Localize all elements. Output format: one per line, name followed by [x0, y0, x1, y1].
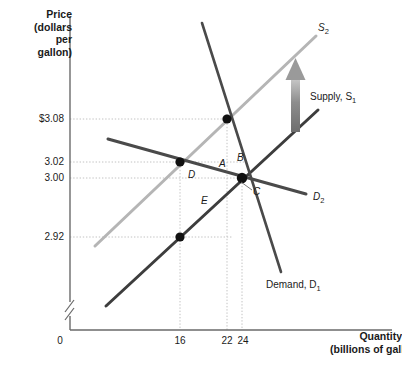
marker-22-308 — [222, 114, 231, 123]
x-tick-label-0: 0 — [45, 335, 75, 346]
marker-24-300 — [237, 173, 247, 183]
demand-d1-label-text: Demand, D — [266, 279, 317, 290]
supply-demand-chart: Price (dollars per gallon) Quantity (bil… — [0, 0, 402, 370]
supply-s2-label-text: S — [318, 22, 325, 33]
point-label-d: D — [188, 169, 195, 180]
y-tick-label-308: $3.08 — [12, 113, 64, 124]
demand-d1-label-sub: 1 — [317, 284, 321, 293]
x-axis-title-line-2: (billions of gallons) — [330, 343, 402, 356]
y-axis-title-line-4: gallon) — [10, 46, 72, 59]
point-label-e: E — [201, 195, 208, 206]
point-label-a: A — [219, 158, 226, 169]
demand-d2-label: D2 — [313, 191, 324, 205]
supply-curve-s1 — [106, 110, 318, 306]
supply-s2-label-sub: 2 — [325, 27, 329, 36]
leader-line-c — [241, 182, 252, 190]
horizontal-gridlines — [70, 119, 247, 237]
supply-s1-label: Supply, S1 — [310, 91, 356, 105]
y-axis-title: Price (dollars per gallon) — [10, 8, 72, 58]
y-tick-label-300: 3.00 — [12, 172, 64, 183]
demand-d2-label-sub: 2 — [320, 196, 324, 205]
x-axis-title-line-1: Quantity — [359, 330, 402, 342]
x-tick-label-24: 24 — [228, 335, 258, 346]
marker-16-302 — [175, 157, 184, 166]
point-label-c: C — [253, 186, 260, 197]
y-axis-title-line-3: per — [10, 33, 72, 46]
point-label-b: B — [237, 152, 244, 163]
supply-s1-label-text: Supply, S — [310, 91, 352, 102]
supply-s1-label-sub: 1 — [352, 96, 356, 105]
vertical-gridlines — [180, 114, 242, 330]
supply-shift-arrow-icon — [286, 58, 306, 132]
supply-s2-label: S2 — [318, 22, 329, 36]
x-axis-title: Quantity (billions of gallons) — [330, 330, 402, 355]
x-tick-label-16: 16 — [165, 335, 195, 346]
y-axis-title-line-1: Price — [10, 8, 72, 21]
marker-16-292 — [175, 232, 184, 241]
y-tick-label-292: 2.92 — [12, 231, 64, 242]
demand-d1-label: Demand, D1 — [266, 279, 321, 293]
y-axis-title-line-2: (dollars — [10, 21, 72, 34]
y-tick-label-302: 3.02 — [12, 156, 64, 167]
